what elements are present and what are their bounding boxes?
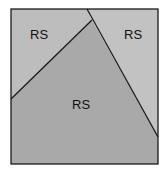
label-center: RS bbox=[72, 97, 90, 112]
partition-diagram: RS RS RS bbox=[0, 0, 167, 176]
label-top-right: RS bbox=[124, 27, 142, 42]
label-top-left: RS bbox=[30, 27, 48, 42]
